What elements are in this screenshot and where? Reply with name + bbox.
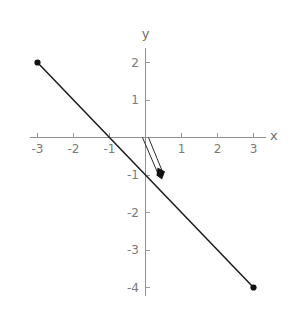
y-tick-label: -4 [127,281,139,295]
y-axis-label: y [142,26,150,41]
y-tick-label: 2 [131,56,139,70]
x-tick-label: -2 [68,142,80,156]
x-tick-label: -1 [104,142,116,156]
endpoint-marker-right [250,284,256,290]
x-tick-label: 1 [178,142,186,156]
x-tick-label: -3 [32,142,44,156]
x-tick-label: 2 [214,142,222,156]
x-axis-label: x [270,128,278,143]
y-tick-label: -2 [127,206,139,220]
y-tick-label: -3 [127,243,139,257]
coordinate-plane-figure: -3 -2 -1 1 2 3 2 1 -1 -2 -3 -4 x y [0,0,292,312]
x-tick-label: 3 [250,142,258,156]
y-tick-label: -1 [127,168,139,182]
y-tick-label: 1 [131,93,139,107]
plot-canvas: -3 -2 -1 1 2 3 2 1 -1 -2 -3 -4 x y [0,0,292,312]
endpoint-marker-left [34,59,40,65]
